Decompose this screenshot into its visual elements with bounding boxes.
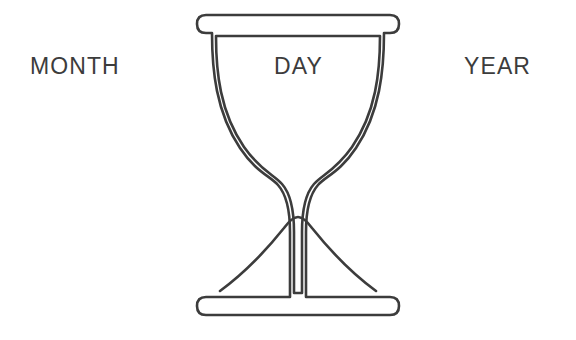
label-month: MONTH bbox=[30, 55, 120, 78]
label-year: YEAR bbox=[464, 55, 531, 78]
illustration-canvas: MONTH DAY YEAR bbox=[0, 0, 576, 340]
hourglass-sand-mound bbox=[220, 217, 376, 291]
label-day: DAY bbox=[274, 55, 323, 78]
hourglass-icon bbox=[0, 0, 576, 340]
